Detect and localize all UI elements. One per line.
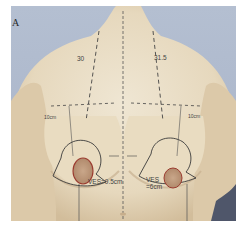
right-sternal-notch-nipple-label: 31.5 bbox=[154, 54, 167, 61]
right-ves-label: VES =6cm bbox=[146, 176, 162, 190]
left-sternal-notch-nipple-label: 30 bbox=[77, 55, 84, 62]
panel-label: A bbox=[12, 17, 19, 28]
left-lateral-measure-label: 10cm bbox=[44, 114, 56, 120]
left-ves-label: VES=9.5cm bbox=[88, 178, 123, 185]
right-lateral-measure-label: 10cm bbox=[188, 113, 200, 119]
right-ves-line2: =6cm bbox=[146, 183, 162, 190]
right-ves-line1: VES bbox=[146, 176, 162, 183]
